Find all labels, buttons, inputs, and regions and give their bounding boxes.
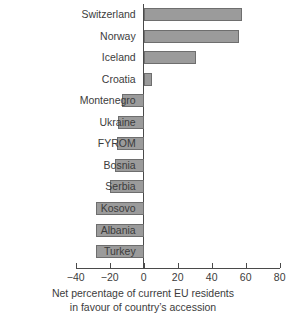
x-tick xyxy=(178,263,179,268)
bar-chart: SwitzerlandNorwayIcelandCroatiaMontenegr… xyxy=(0,0,286,318)
x-axis-title: Net percentage of current EU residents i… xyxy=(0,287,286,314)
category-label: Serbia xyxy=(2,180,136,193)
category-label: FYROM xyxy=(2,137,136,150)
bar xyxy=(144,73,153,86)
category-label: Switzerland xyxy=(2,8,136,21)
category-label: Turkey xyxy=(2,245,136,258)
x-axis-line xyxy=(76,268,280,269)
category-label: Albania xyxy=(2,224,136,237)
category-label: Iceland xyxy=(2,51,136,64)
x-axis-title-line2: in favour of country’s accession xyxy=(0,301,286,315)
x-tick-label: 80 xyxy=(260,271,286,283)
category-label: Bosnia xyxy=(2,159,136,172)
category-label: Kosovo xyxy=(2,202,136,215)
category-label: Norway xyxy=(2,30,136,43)
x-tick xyxy=(76,263,77,268)
x-tick xyxy=(212,263,213,268)
bar xyxy=(144,8,243,21)
x-tick xyxy=(280,263,281,268)
x-tick xyxy=(144,263,145,268)
x-tick xyxy=(246,263,247,268)
bar xyxy=(144,30,239,43)
x-axis-title-line1: Net percentage of current EU residents xyxy=(52,287,234,299)
category-label: Ukraine xyxy=(2,116,136,129)
category-label: Croatia xyxy=(2,73,136,86)
x-tick xyxy=(110,263,111,268)
category-label: Montenegro xyxy=(2,94,136,107)
bar xyxy=(144,51,197,64)
plot-area: SwitzerlandNorwayIcelandCroatiaMontenegr… xyxy=(0,0,286,270)
